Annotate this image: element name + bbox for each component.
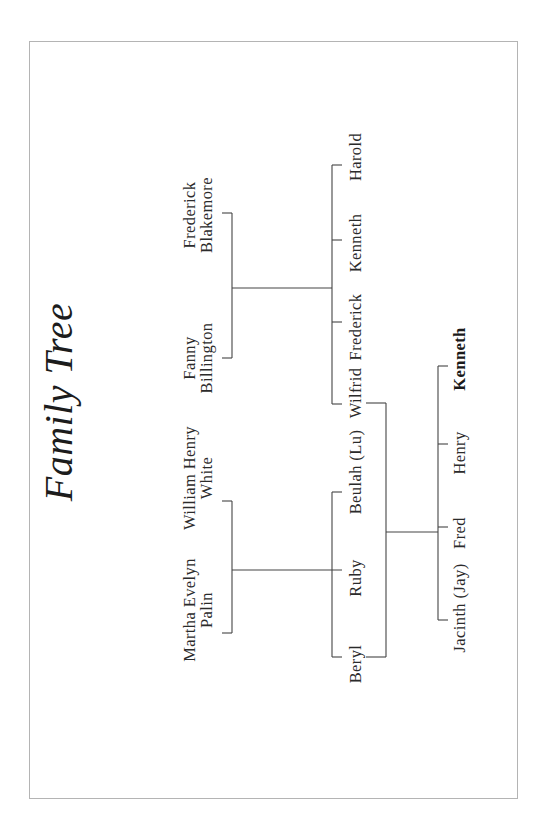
person-beulah: Beulah (Lu) [347, 430, 364, 515]
person-name-line: Billington [198, 323, 215, 394]
person-name-line: White [198, 426, 215, 530]
person-henry: Henry [451, 431, 468, 474]
person-name-line: Fanny [181, 323, 198, 394]
person-name-line: Frederick [181, 177, 198, 253]
person-beryl: Beryl [347, 645, 364, 684]
person-name-line: William Henry [181, 426, 198, 530]
person-ruby: Ruby [347, 559, 364, 596]
tree-connector-lines [0, 0, 550, 839]
person-harold: Harold [347, 133, 364, 181]
person-frederick-jr: Frederick [347, 294, 364, 361]
person-name-line: Martha Evelyn [181, 558, 198, 662]
person-kenneth-sr: Kenneth [347, 214, 364, 273]
person-name-line: Blakemore [198, 177, 215, 253]
person-name-line: Palin [198, 558, 215, 662]
person-wilfrid: Wilfrid [347, 368, 364, 419]
person-kenneth-highlighted: Kenneth [451, 327, 468, 390]
person-fred: Fred [451, 517, 468, 549]
person-frederick-blakemore: Frederick Blakemore [181, 177, 215, 253]
person-jacinth: Jacinth (Jay) [451, 563, 468, 652]
person-william-henry-white: William Henry White [181, 426, 215, 530]
person-martha-evelyn-palin: Martha Evelyn Palin [181, 558, 215, 662]
page-title: Family Tree [35, 303, 82, 501]
person-fanny-billington: Fanny Billington [181, 323, 215, 394]
